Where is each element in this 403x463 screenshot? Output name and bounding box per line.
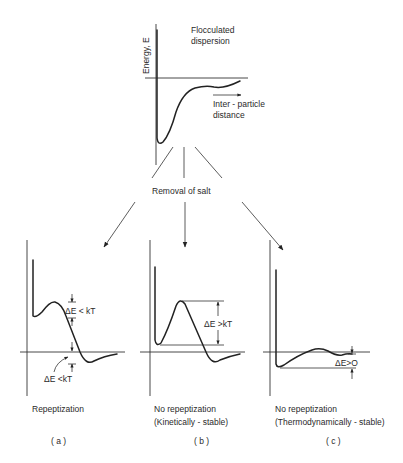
top-plot: Flocculated dispersion Inter - particle … bbox=[141, 24, 265, 165]
panel-c-well-label: ΔE>O bbox=[335, 358, 358, 368]
panel-b-caption-line1: No repeptization bbox=[154, 404, 216, 414]
removal-of-salt-label: Removal of salt bbox=[152, 186, 211, 196]
panel-c-tag: ( c ) bbox=[326, 436, 341, 446]
x-axis-label-line1: Inter - particle bbox=[213, 99, 265, 109]
panel-a-caption: Repeptization bbox=[32, 404, 84, 414]
panel-a-tag: ( a ) bbox=[51, 436, 66, 446]
panel-b: ΔE >kT No repeptization (Kinetically - s… bbox=[140, 240, 245, 446]
top-title-line1: Flocculated bbox=[191, 25, 235, 35]
panel-c-caption-line2: (Thermodynamically - stable) bbox=[275, 417, 385, 427]
arrow-to-a bbox=[104, 202, 135, 247]
transition-arrows: Removal of salt bbox=[104, 147, 283, 250]
y-axis-label: Energy, E bbox=[141, 37, 151, 74]
panel-a: ΔE < kT ΔE <kT Repeptization ( a ) bbox=[20, 240, 125, 446]
diagram-canvas: Flocculated dispersion Inter - particle … bbox=[0, 0, 403, 463]
arrow-to-c bbox=[242, 202, 283, 250]
panel-b-curve bbox=[155, 267, 240, 362]
panel-c: ΔE>O No repeptization (Thermodynamically… bbox=[263, 240, 385, 446]
x-axis-label-line2: distance bbox=[213, 110, 245, 120]
panel-a-well-label: ΔE <kT bbox=[44, 374, 72, 384]
panel-b-tag: ( b ) bbox=[194, 436, 209, 446]
panel-c-caption-line1: No repeptization bbox=[275, 404, 337, 414]
panel-b-barrier-label: ΔE >kT bbox=[204, 319, 232, 329]
energy-diagram: Flocculated dispersion Inter - particle … bbox=[0, 0, 403, 463]
panel-a-barrier-label: ΔE < kT bbox=[65, 306, 95, 316]
top-energy-curve bbox=[157, 30, 240, 143]
top-title-line2: dispersion bbox=[191, 36, 230, 46]
panel-b-caption-line2: (Kinetically - stable) bbox=[154, 417, 228, 427]
